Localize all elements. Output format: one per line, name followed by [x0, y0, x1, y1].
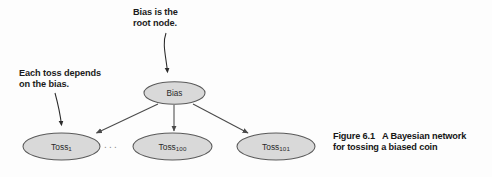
- node-group: [23, 82, 315, 160]
- annotation-each-toss-text: Each toss depends on the bias.: [19, 68, 101, 90]
- toss-101-node[interactable]: [237, 133, 315, 160]
- continuation-ellipsis: ...: [104, 139, 119, 150]
- leader-line-root-node: [164, 33, 167, 72]
- edge-group: [97, 104, 249, 133]
- bias-node[interactable]: [144, 82, 205, 104]
- edge-bias-to-toss-1: [97, 104, 159, 133]
- edge-bias-to-toss-101: [193, 104, 248, 133]
- toss-100-node[interactable]: [133, 133, 212, 160]
- caption-figure-label: Figure 6.1: [333, 131, 375, 141]
- figure-caption: Figure 6.1A Bayesian network for tossing…: [333, 131, 489, 154]
- caption-title-part-1: A Bayesian network: [382, 131, 466, 141]
- caption-line-2: for tossing a biased coin: [333, 142, 489, 153]
- toss-1-node[interactable]: [23, 133, 100, 160]
- bayesian-network-figure: Bias Toss1 Toss100 Toss101 ... Bias is t…: [0, 0, 492, 177]
- leader-line-each-toss: [55, 93, 62, 125]
- annotation-root-node-text: Bias is the root node.: [133, 7, 178, 29]
- caption-line-1: Figure 6.1A Bayesian network: [333, 131, 489, 142]
